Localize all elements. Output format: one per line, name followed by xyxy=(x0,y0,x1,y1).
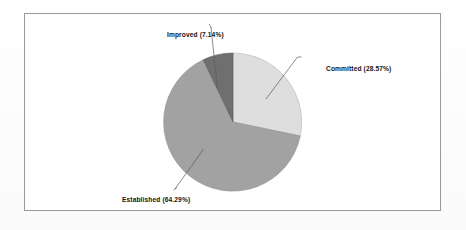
pie-chart-svg xyxy=(25,14,440,210)
pie-label-established: Established (64.29%) xyxy=(122,197,190,204)
plot-frame-border: Improved (7.14%) Committed (28.57%) Esta… xyxy=(24,13,441,211)
pie-label-committed: Committed (28.57%) xyxy=(326,66,391,73)
chart-screenshot: Improved (7.14%) Committed (28.57%) Esta… xyxy=(0,0,466,230)
pie-label-improved: Improved (7.14%) xyxy=(167,32,224,39)
